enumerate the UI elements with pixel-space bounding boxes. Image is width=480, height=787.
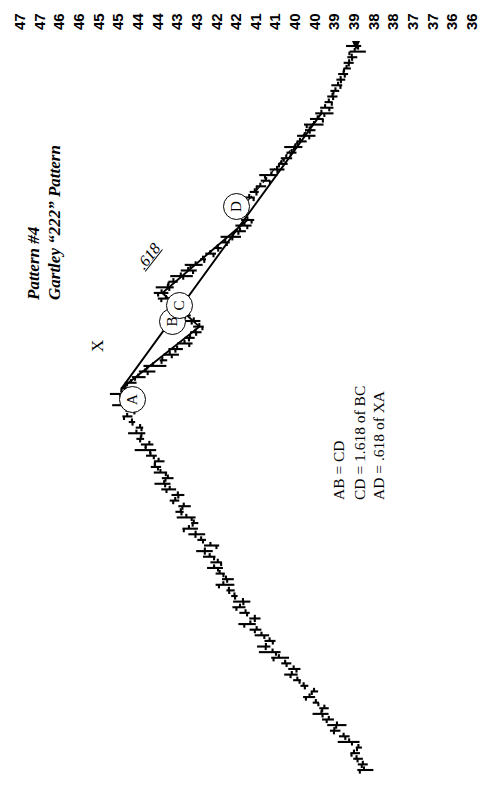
retracement-guide-line bbox=[243, 113, 321, 206]
marker-label-a: A bbox=[124, 394, 141, 405]
marker-label-c: C bbox=[171, 301, 188, 311]
marker-label-x: X bbox=[88, 340, 108, 352]
marker-label-d: D bbox=[228, 202, 245, 213]
ohlc-bars bbox=[110, 42, 373, 773]
marker-point-a[interactable]: A bbox=[119, 386, 146, 413]
